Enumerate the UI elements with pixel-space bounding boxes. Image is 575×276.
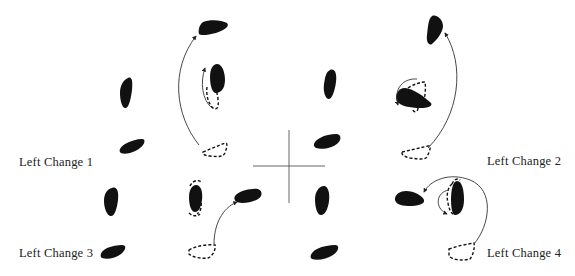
foot-icon [120,139,145,154]
diagram-canvas: Left Change 1 Left Change 2 Left Change … [0,0,575,276]
movement-arrow [179,36,199,145]
ghost-foot-icon [189,245,215,259]
label-left-change-2: Left Change 2 [487,154,561,169]
label-left-change-3: Left Change 3 [19,246,93,261]
panel-left-change-2 [314,16,457,159]
foot-icon [427,16,443,45]
foot-icon [395,191,424,206]
ghost-foot-icon [402,146,430,159]
label-left-change-1: Left Change 1 [19,155,93,170]
foot-icon [396,88,431,108]
panel-left-change-1 [120,20,228,156]
center-crosshair [253,130,325,203]
foot-icon [314,134,341,149]
foot-icon [234,189,261,203]
foot-icon [315,186,329,215]
foot-icon [189,185,202,212]
panel-left-change-3 [101,181,262,259]
movement-arrow [214,202,237,244]
movement-arrow [428,33,457,148]
ghost-foot-icon [449,243,474,260]
foot-icon [104,188,118,216]
foot-icon [311,245,339,260]
foot-icon [324,70,337,99]
foot-diagram [0,0,575,276]
ghost-foot-icon [413,108,418,112]
label-left-change-4: Left Change 4 [487,246,561,261]
foot-icon [210,64,225,93]
foot-icon [101,245,126,259]
foot-icon [120,78,132,108]
panel-left-change-4 [311,177,488,260]
foot-icon [199,20,228,35]
foot-icon [451,181,464,215]
ghost-foot-icon [203,143,227,157]
